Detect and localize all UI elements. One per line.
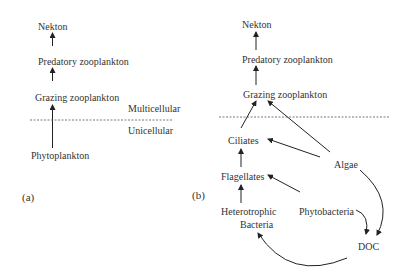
node-b-bacteria: Bacteria [240,219,273,230]
panel-b-label: (b) [192,190,205,201]
zone-unicellular: Unicellular [128,125,173,136]
node-a-nekton: Nekton [38,21,67,32]
zone-multicellular: Multicellular [128,103,180,114]
node-b-ciliates: Ciliates [228,135,259,146]
arrow-algae-to-grazing [268,101,330,152]
arrow-algae-to-doc [360,170,383,235]
node-b-nekton: Nekton [242,19,271,30]
node-b-phytobacteria: Phytobacteria [299,206,354,217]
arrow-doc-to-bacteria [258,233,347,266]
node-a-predatory-zooplankton: Predatory zooplankton [38,56,129,67]
arrow-phytobacteria-to-doc [356,210,367,234]
node-b-grazing-zooplankton: Grazing zooplankton [243,89,327,100]
panel-a-label: (a) [22,192,34,203]
node-b-doc: DOC [358,241,379,252]
arrow-phytobacteria-to-flagellates [268,175,300,192]
node-b-heterotrophic: Heterotrophic [221,206,277,217]
node-a-grazing-zooplankton: Grazing zooplankton [35,92,119,103]
arrow-layer [0,0,409,274]
node-b-predatory-zooplankton: Predatory zooplankton [242,54,333,65]
node-b-algae: Algae [334,159,358,170]
node-b-flagellates: Flagellates [221,171,264,182]
arrow-algae-to-ciliates [268,139,320,157]
node-a-phytoplankton: Phytoplankton [31,150,89,161]
arrow-ciliates-to-grazing [241,101,256,128]
